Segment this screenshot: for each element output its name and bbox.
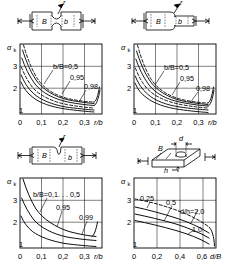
curve-label-dh-p4: d/h=2,0 [180, 207, 204, 216]
figure-sheet: B b r [0, 0, 227, 268]
specimen-diagram-2: B b r [114, 0, 227, 40]
curve-label-05-p4: 0,5 [166, 198, 176, 207]
dim-label-B-2: B [156, 17, 161, 26]
xtick-0-p3: 0 [18, 252, 22, 261]
curve-label-098-p1: 0,98 [84, 82, 98, 91]
xtick-2-p2: 0,2 [172, 118, 182, 127]
y-axis-label-sub-p1: k [14, 47, 17, 53]
specimen-diagram-4: d B h [114, 134, 227, 174]
ytick-1-p2: 1 [133, 106, 137, 115]
xtick-3-p2: 0,3 [193, 118, 203, 127]
dim-label-b-3: b [68, 153, 72, 162]
dim-label-b-2: b [178, 17, 182, 26]
curve-label-095-p3: 0,95 [56, 203, 70, 212]
chart-panel-4: 1 2 3 α k 0 0,2 0,4 0,6 d/B 0,25 0,5 d/h… [114, 174, 227, 268]
dim-label-b-1: b [64, 17, 68, 26]
xtick-0-p1: 0 [18, 118, 22, 127]
curve-label-098-p2: 0,98 [196, 84, 210, 93]
xtick-3-p3: 0,3 [79, 252, 89, 261]
xtick-3-p4: 0,6 [197, 252, 207, 261]
notch-radius-label-3: r [63, 132, 66, 141]
curve-label-10-p4: 1,0 [192, 225, 202, 234]
ytick-3-p3: 3 [13, 196, 17, 205]
x-axis-label-p4: d/B [210, 252, 221, 261]
xtick-2-p4: 0,4 [175, 252, 185, 261]
curve-label-bB-p3: b/B=0,1. . . 0,5 [33, 190, 80, 199]
xtick-0-p4: 0 [132, 252, 136, 261]
curve-label-095-p2: 0,95 [180, 74, 194, 83]
y-axis-label-p4: α [121, 177, 126, 186]
chart-panel-2: 1 2 3 α k 0 0,1 0,2 0,3 r/b b/B=0,5 0,95… [114, 40, 227, 134]
dim-label-B-1: B [42, 17, 47, 26]
xtick-1-p4: 0,2 [152, 252, 162, 261]
chart-panel-1: 1 2 3 α k 0 0,1 0,2 0,3 r/b b/B=0,5 0,95… [0, 40, 113, 134]
xtick-2-p3: 0,2 [58, 252, 68, 261]
curve-label-099-p3: 0,99 [79, 213, 93, 222]
ytick-2-p2: 2 [127, 84, 131, 93]
xtick-3-p1: 0,3 [79, 118, 89, 127]
xtick-0-p2: 0 [132, 118, 136, 127]
notch-radius-label-1: r [63, 0, 66, 7]
ytick-2-p1: 2 [13, 84, 17, 93]
y-axis-label-p3: α [7, 177, 12, 186]
x-axis-label-p3: r/b [94, 252, 103, 261]
ytick-2-p4: 2 [127, 218, 131, 227]
xtick-1-p1: 0,1 [36, 118, 46, 127]
dim-label-B-4: B [158, 144, 163, 153]
ytick-2-p3: 2 [13, 218, 17, 227]
notch-radius-label-2: r [180, 0, 183, 7]
y-axis-label-sub-p3: k [14, 181, 17, 187]
panel-notched-flat-bar-tension: B b r [0, 0, 113, 134]
y-axis-label-p1: α [7, 43, 12, 52]
xtick-1-p2: 0,1 [150, 118, 160, 127]
chart-panel-3: 1 2 3 α k 0 0,1 0,2 0,3 r/b b/B=0,1. . .… [0, 174, 113, 268]
curve-label-025-p4: 0,25 [140, 194, 154, 203]
dim-label-B-3: B [42, 151, 47, 160]
x-axis-label-p1: r/b [94, 118, 103, 127]
ytick-1-p1: 1 [19, 106, 23, 115]
y-axis-label-sub-p2: k [128, 47, 131, 53]
ytick-3-p1: 3 [13, 62, 17, 71]
ytick-1-p4: 1 [133, 240, 137, 249]
specimen-diagram-1: B b r [0, 0, 113, 40]
panel-single-notch-bar-tension: B b r [0, 134, 113, 268]
panel-transverse-hole-bar-tension: d B h [114, 134, 227, 268]
y-axis-label-p2: α [121, 43, 126, 52]
specimen-diagram-3: B b r [0, 134, 113, 174]
ytick-3-p2: 3 [127, 62, 131, 71]
dim-label-d-4: d [179, 134, 184, 143]
curve-label-095-p1: 0,95 [70, 73, 84, 82]
xtick-1-p3: 0,1 [36, 252, 46, 261]
ytick-1-p3: 1 [19, 240, 23, 249]
x-axis-label-p2: r/b [208, 118, 217, 127]
xtick-2-p1: 0,2 [58, 118, 68, 127]
curve-label-bB-p1: b/B=0,5 [53, 62, 78, 71]
y-axis-label-sub-p4: k [128, 181, 131, 187]
curve-label-bB-p2: b/B=0,5 [164, 63, 189, 72]
ytick-3-p4: 3 [127, 196, 131, 205]
panel-shouldered-bar-tension: B b r [114, 0, 227, 134]
